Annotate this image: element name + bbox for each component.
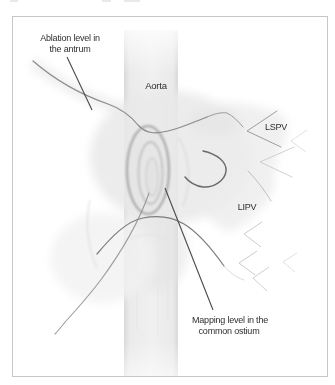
aorta-label: Aorta xyxy=(145,80,168,91)
ostium-ring-inner xyxy=(146,158,158,196)
mapping-label-line2: common ostium xyxy=(199,326,260,336)
ablation-label-line1: Ablation level in xyxy=(40,33,100,43)
lspv-label: LSPV xyxy=(265,122,287,132)
common-ostium-rings xyxy=(127,126,169,214)
mapping-label-line1: Mapping level in the xyxy=(192,315,268,325)
figure-panel: Ablation level in the antrum Aorta LSPV … xyxy=(0,0,335,385)
lipv-label: LIPV xyxy=(238,202,257,212)
figure-canvas: Ablation level in the antrum Aorta LSPV … xyxy=(0,0,335,385)
ablation-label-line2: the antrum xyxy=(49,44,90,54)
